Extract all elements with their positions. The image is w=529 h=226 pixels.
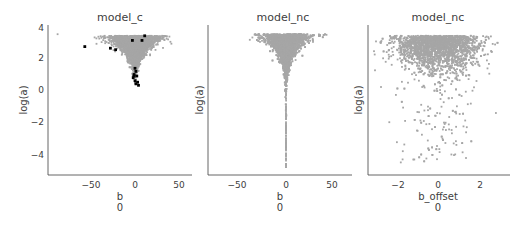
x-tick: 0 xyxy=(283,180,289,190)
y-tick: 4 xyxy=(38,23,44,33)
x-tick: 0 xyxy=(132,180,138,190)
figure: model_c 4 2 0 −2 −4 −50 0 50 b 0 log(a) … xyxy=(0,0,529,226)
x-label-sub: 0 xyxy=(277,202,283,213)
x-label: b xyxy=(277,191,283,202)
y-label: log(a) xyxy=(353,85,364,114)
panel-model-c: model_c 4 2 0 −2 −4 −50 0 50 b 0 log(a) xyxy=(18,11,192,213)
panel-model-nc-b: model_nc −50 0 50 b 0 log(a) xyxy=(194,11,352,213)
x-tick: 2 xyxy=(477,180,483,190)
x-tick: 50 xyxy=(326,180,338,190)
x-tick: 50 xyxy=(173,180,185,190)
x-tick: −50 xyxy=(228,180,247,190)
scatter-points xyxy=(57,33,173,85)
scatter-points xyxy=(373,35,498,163)
y-tick: 2 xyxy=(38,53,44,63)
x-tick: −2 xyxy=(391,180,404,190)
panel-model-nc-b-offset: model_nc −2 0 2 b_offset 0 log(a) xyxy=(353,11,510,213)
x-label-sub: 0 xyxy=(117,202,123,213)
y-label: log(a) xyxy=(18,85,29,114)
x-tick: −50 xyxy=(82,180,101,190)
x-tick: 0 xyxy=(435,180,441,190)
panel-title: model_nc xyxy=(412,11,465,24)
y-tick: −2 xyxy=(31,117,44,127)
panel-title: model_c xyxy=(97,11,143,24)
x-label-sub: 0 xyxy=(435,202,441,213)
y-tick: −4 xyxy=(31,150,45,160)
panel-title: model_nc xyxy=(257,11,310,24)
y-tick: 0 xyxy=(38,85,44,95)
scatter-points xyxy=(249,33,328,168)
y-label: log(a) xyxy=(194,85,205,114)
x-label: b xyxy=(117,191,123,202)
